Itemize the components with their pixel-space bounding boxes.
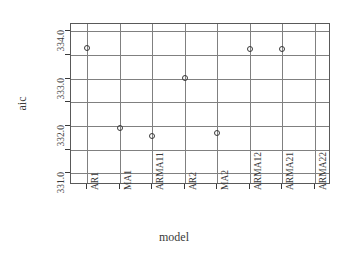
y-tick-label-text: 334.0 xyxy=(56,30,66,51)
gridline-horizontal xyxy=(71,79,329,80)
x-tick-label-text: ARMA22 xyxy=(318,152,328,190)
data-point xyxy=(279,46,285,52)
y-tick-label: 334.0 xyxy=(0,25,63,35)
x-axis-tick xyxy=(249,184,250,189)
x-axis-tick xyxy=(86,184,87,189)
gridline-horizontal xyxy=(71,126,329,127)
gridline-vertical xyxy=(120,24,121,183)
y-tick-label: 332.0 xyxy=(0,120,63,130)
x-axis-tick xyxy=(151,184,152,189)
y-tick-label: 333.0 xyxy=(0,73,63,83)
x-axis-tick xyxy=(119,184,120,189)
y-tick-label-text: 331.0 xyxy=(56,172,66,193)
x-axis-title-text: model xyxy=(159,230,189,244)
data-point xyxy=(117,125,123,131)
y-axis-title-text: aic xyxy=(15,97,30,111)
y-tick-label-text: 332.0 xyxy=(56,125,66,146)
data-point xyxy=(214,130,220,136)
x-tick-label-text: ARMA21 xyxy=(285,152,295,190)
gridline-vertical xyxy=(185,24,186,183)
gridline-horizontal xyxy=(71,55,329,56)
x-axis-tick xyxy=(184,184,185,189)
x-tick-label-text: AR1 xyxy=(90,172,100,190)
y-tick-label: 331.0 xyxy=(0,167,63,177)
x-tick-label-text: AR2 xyxy=(188,172,198,190)
gridline-horizontal xyxy=(71,102,329,103)
y-tick-label-text: 333.0 xyxy=(56,78,66,99)
x-axis-tick xyxy=(314,184,315,189)
gridline-vertical xyxy=(217,24,218,183)
data-point xyxy=(84,45,90,51)
x-axis-title: model xyxy=(0,230,348,245)
gridline-horizontal xyxy=(71,31,329,32)
y-axis-title: aic xyxy=(14,96,30,111)
gridline-horizontal xyxy=(71,150,329,151)
x-tick-label-text: ARMA12 xyxy=(253,152,263,190)
x-tick-label-text: MA1 xyxy=(123,170,133,190)
x-tick-label-text: MA2 xyxy=(220,170,230,190)
chart-figure: aic 334.0333.0332.0331.0 AR1MA1ARMA11AR2… xyxy=(0,0,348,253)
x-axis-tick xyxy=(281,184,282,189)
gridline-vertical xyxy=(152,24,153,183)
gridline-vertical xyxy=(315,24,316,183)
data-point xyxy=(182,75,188,81)
data-point xyxy=(149,133,155,139)
data-point xyxy=(247,46,253,52)
x-tick-label-text: ARMA11 xyxy=(155,152,165,190)
x-axis-tick xyxy=(216,184,217,189)
